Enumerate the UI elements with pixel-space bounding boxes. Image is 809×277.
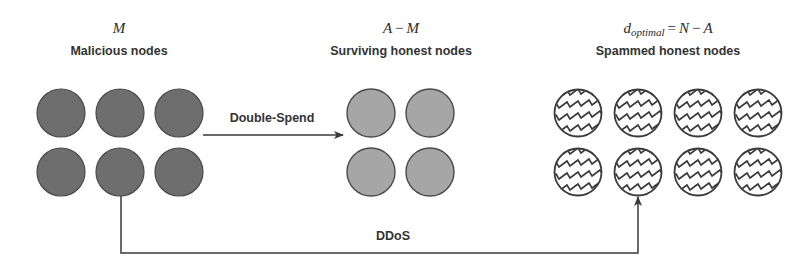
- surviving-node: [347, 148, 395, 196]
- spammed-nodes-group: [548, 86, 791, 204]
- spammed-node: [608, 145, 671, 204]
- malicious-node: [37, 89, 85, 137]
- spammed-node: [668, 145, 731, 204]
- surviving-nodes-group: [347, 89, 454, 196]
- ddos-arrow: [121, 196, 638, 253]
- spammed-node: [548, 145, 611, 204]
- spammed-node: [728, 145, 791, 204]
- malicious-node: [96, 148, 144, 196]
- diagram-canvas: [0, 0, 809, 277]
- surviving-node: [347, 89, 395, 137]
- surviving-node: [406, 89, 454, 137]
- malicious-node: [155, 89, 203, 137]
- spammed-node: [728, 86, 791, 145]
- spammed-node: [608, 86, 671, 145]
- malicious-node: [37, 148, 85, 196]
- malicious-nodes-group: [37, 89, 203, 196]
- spammed-node: [548, 86, 611, 145]
- malicious-node: [96, 89, 144, 137]
- malicious-node: [155, 148, 203, 196]
- spammed-node: [668, 86, 731, 145]
- surviving-node: [406, 148, 454, 196]
